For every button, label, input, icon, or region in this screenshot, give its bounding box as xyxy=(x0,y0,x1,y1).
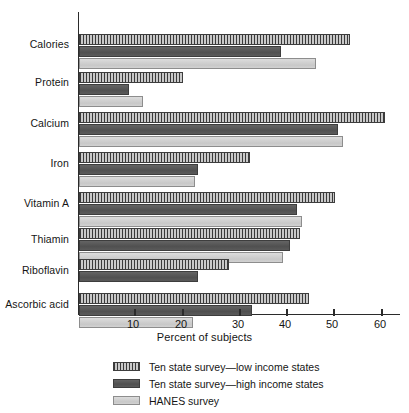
category-label-protein: Protein xyxy=(35,77,69,88)
x-axis-title: Percent of subjects xyxy=(0,331,409,343)
category-label-calories: Calories xyxy=(30,39,69,50)
x-tick-label-40: 40 xyxy=(279,318,291,330)
bar-protein-series-3 xyxy=(79,96,143,107)
bar-calcium-series-2 xyxy=(79,124,338,135)
bar-riboflavin-series-1 xyxy=(79,259,229,270)
category-label-calcium: Calcium xyxy=(30,118,69,129)
bar-vitamin-a-series-2 xyxy=(79,204,297,215)
legend-item-hanes: HANES survey xyxy=(113,392,403,409)
bars-layer xyxy=(79,12,400,314)
bar-riboflavin-series-2 xyxy=(79,271,198,282)
bar-thiamin-series-2 xyxy=(79,240,290,251)
chart-legend: Ten state survey—low income states Ten s… xyxy=(113,358,403,409)
x-tick-label-10: 10 xyxy=(127,318,139,330)
bar-calcium-series-1 xyxy=(79,112,385,123)
bar-calories-series-1 xyxy=(79,34,350,45)
bar-ascorbic-acid-series-1 xyxy=(79,293,309,304)
x-tick-label-60: 60 xyxy=(374,318,386,330)
bar-vitamin-a-series-1 xyxy=(79,192,335,203)
category-label-iron: Iron xyxy=(51,158,70,169)
category-label-ascorbic-acid: Ascorbic acid xyxy=(5,299,69,310)
legend-label-high-income: Ten state survey—high income states xyxy=(149,378,324,390)
category-label-vitamin-a: Vitamin A xyxy=(24,198,69,209)
x-tick-60 xyxy=(381,309,383,316)
legend-label-hanes: HANES survey xyxy=(149,395,219,407)
x-tick-40 xyxy=(286,309,288,316)
x-tick-10 xyxy=(134,309,136,316)
x-tick-label-30: 30 xyxy=(232,318,244,330)
bar-iron-series-3 xyxy=(79,176,195,187)
legend-swatch-light-icon xyxy=(113,396,140,405)
bar-iron-series-2 xyxy=(79,164,198,175)
bar-calories-series-3 xyxy=(79,58,316,69)
bar-protein-series-2 xyxy=(79,84,129,95)
x-tick-20 xyxy=(182,309,184,316)
bar-vitamin-a-series-3 xyxy=(79,216,302,227)
x-tick-label-20: 20 xyxy=(175,318,187,330)
bar-ascorbic-acid-series-2 xyxy=(79,305,252,316)
legend-item-high-income: Ten state survey—high income states xyxy=(113,375,403,392)
x-tick-label-50: 50 xyxy=(326,318,338,330)
bar-iron-series-1 xyxy=(79,152,250,163)
bar-calories-series-2 xyxy=(79,46,281,57)
plot-area xyxy=(78,12,400,315)
x-tick-50 xyxy=(333,309,335,316)
legend-item-low-income: Ten state survey—low income states xyxy=(113,358,403,375)
legend-label-low-income: Ten state survey—low income states xyxy=(149,361,319,373)
bar-thiamin-series-1 xyxy=(79,228,300,239)
bar-calcium-series-3 xyxy=(79,136,343,147)
category-label-thiamin: Thiamin xyxy=(31,234,69,245)
category-axis-labels: Calories Protein Calcium Iron Vitamin A … xyxy=(0,22,73,310)
category-label-riboflavin: Riboflavin xyxy=(22,265,69,276)
x-tick-30 xyxy=(239,309,241,316)
bar-chart: Calories Protein Calcium Iron Vitamin A … xyxy=(0,0,409,413)
legend-swatch-dark-icon xyxy=(113,379,140,388)
legend-swatch-striped-icon xyxy=(113,362,140,371)
bar-protein-series-1 xyxy=(79,72,183,83)
